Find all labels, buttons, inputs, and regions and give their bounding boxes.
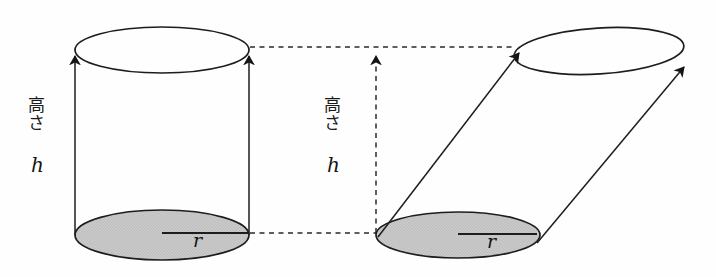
left-top-ellipse xyxy=(75,27,249,73)
left-radius-label: r xyxy=(193,229,202,251)
geometry-figure: 高さ h r 高さ h r xyxy=(0,0,716,277)
left-height-label-japanese: 高さ xyxy=(26,96,43,132)
right-height-label-variable: h xyxy=(327,153,340,177)
figure-canvas xyxy=(0,0,716,277)
left-height-label-variable: h xyxy=(31,153,44,177)
right-radius-label: r xyxy=(487,230,496,252)
right-cylinder-side-right xyxy=(537,67,684,243)
right-height-label-japanese: 高さ xyxy=(322,96,339,132)
left-base-ellipse xyxy=(75,210,249,260)
right-cylinder-side-left xyxy=(378,53,519,237)
right-top-ellipse xyxy=(513,23,685,79)
